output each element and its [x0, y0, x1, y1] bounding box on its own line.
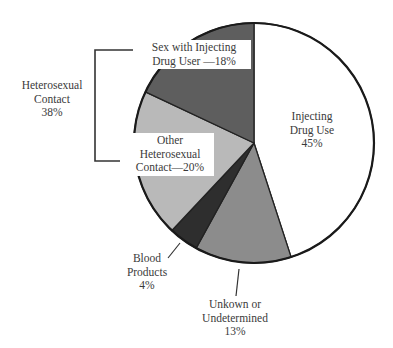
- label-other-heterosexual: Other Heterosexual Contact—20%: [126, 133, 214, 176]
- label-line: Heterosexual: [130, 148, 210, 162]
- label-line: Drug User —18%: [141, 55, 247, 69]
- label-line: Contact—20%: [130, 161, 210, 175]
- label-line: Heterosexual: [14, 79, 90, 93]
- label-line: Drug Use: [272, 124, 352, 138]
- label-injecting-drug-use: Injecting Drug Use 45%: [272, 110, 352, 151]
- label-line: 13%: [193, 325, 277, 339]
- label-line: Blood: [119, 252, 175, 266]
- label-line: 4%: [119, 279, 175, 293]
- label-heterosexual-group: Heterosexual Contact 38%: [14, 79, 90, 120]
- label-unknown: Unkown or Undetermined 13%: [193, 298, 277, 339]
- label-line: Unkown or: [193, 298, 277, 312]
- label-line: Sex with Injecting: [141, 41, 247, 55]
- label-line: 38%: [14, 106, 90, 120]
- unknown-leader-line: [236, 269, 239, 296]
- label-line: 45%: [272, 137, 352, 151]
- label-blood-products: Blood Products 4%: [119, 252, 175, 293]
- label-line: Other: [130, 134, 210, 148]
- label-line: Products: [119, 266, 175, 280]
- label-line: Undetermined: [193, 312, 277, 326]
- label-line: Contact: [14, 93, 90, 107]
- label-line: Injecting: [272, 110, 352, 124]
- label-sex-with-idu: Sex with Injecting Drug User —18%: [137, 40, 251, 69]
